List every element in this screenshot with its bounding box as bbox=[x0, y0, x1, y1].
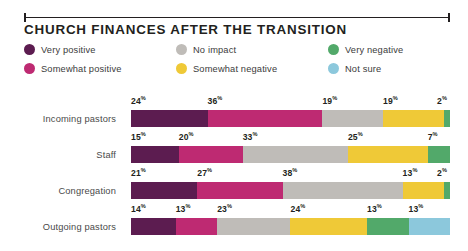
data-label: 36% bbox=[208, 96, 223, 106]
percent-sign: % bbox=[227, 203, 232, 209]
category-label: Congregation bbox=[0, 186, 116, 196]
category-label: Staff bbox=[0, 150, 116, 160]
data-label-value: 13 bbox=[409, 204, 419, 214]
rule-cap-right-icon bbox=[448, 13, 450, 22]
stacked-bar bbox=[131, 182, 450, 199]
data-label-value: 24 bbox=[291, 204, 301, 214]
percent-sign: % bbox=[393, 95, 398, 101]
data-label-value: 33 bbox=[243, 132, 253, 142]
bar-segment bbox=[444, 110, 450, 127]
data-label: 2% bbox=[437, 168, 447, 178]
data-label: 13% bbox=[176, 204, 191, 214]
category-label: Incoming pastors bbox=[0, 114, 116, 124]
chart-page: CHURCH FINANCES AFTER THE TRANSITION Ver… bbox=[0, 0, 468, 251]
data-label-group: 21%27%38%13%2% bbox=[131, 168, 450, 182]
bar-segment bbox=[403, 182, 444, 199]
percent-sign: % bbox=[252, 131, 257, 137]
data-label: 38% bbox=[283, 168, 298, 178]
percent-sign: % bbox=[141, 203, 146, 209]
bar-segment bbox=[243, 146, 348, 163]
data-label: 13% bbox=[403, 168, 418, 178]
data-label: 21% bbox=[131, 168, 146, 178]
legend-item-very-positive: Very positive bbox=[24, 44, 96, 55]
legend-item-somewhat-positive: Somewhat positive bbox=[24, 63, 122, 74]
chart-row: Congregation 21%27%38%13%2% bbox=[0, 168, 468, 205]
data-label: 24% bbox=[131, 96, 146, 106]
data-label-value: 15 bbox=[131, 132, 141, 142]
data-label-value: 25 bbox=[348, 132, 358, 142]
title-rule-icon bbox=[24, 13, 450, 22]
data-label: 27% bbox=[197, 168, 212, 178]
data-label: 2% bbox=[437, 96, 447, 106]
bar-segment bbox=[131, 182, 197, 199]
legend-item-very-negative: Very negative bbox=[328, 44, 403, 55]
chart-row: Incoming pastors 24%36%19%19%2% bbox=[0, 96, 468, 133]
rule-line bbox=[24, 17, 450, 18]
percent-sign: % bbox=[300, 203, 305, 209]
percent-sign: % bbox=[189, 131, 194, 137]
bar-segment bbox=[428, 146, 450, 163]
bar-segment bbox=[176, 218, 217, 235]
percent-sign: % bbox=[412, 167, 417, 173]
percent-sign: % bbox=[442, 95, 447, 101]
circle-swatch-icon bbox=[24, 44, 35, 55]
data-label-value: 19 bbox=[322, 96, 332, 106]
bar-segment bbox=[290, 218, 367, 235]
data-label: 25% bbox=[348, 132, 363, 142]
percent-sign: % bbox=[141, 167, 146, 173]
bar-segment bbox=[322, 110, 383, 127]
data-label: 19% bbox=[322, 96, 337, 106]
chart-row: Outgoing pastors 14%13%23%24%13%13% bbox=[0, 204, 468, 241]
legend-item-somewhat-negative: Somewhat negative bbox=[176, 63, 277, 74]
circle-swatch-icon bbox=[328, 63, 339, 74]
data-label-value: 13 bbox=[367, 204, 377, 214]
percent-sign: % bbox=[377, 203, 382, 209]
bar-segment bbox=[131, 110, 208, 127]
circle-swatch-icon bbox=[24, 63, 35, 74]
data-label-value: 36 bbox=[208, 96, 218, 106]
bar-segment bbox=[409, 218, 450, 235]
bar-segment bbox=[208, 110, 323, 127]
legend-item-no-impact: No impact bbox=[176, 44, 236, 55]
percent-sign: % bbox=[185, 203, 190, 209]
circle-swatch-icon bbox=[176, 63, 187, 74]
stacked-bar bbox=[131, 110, 450, 127]
bar-segment bbox=[217, 218, 290, 235]
percent-sign: % bbox=[433, 131, 438, 137]
data-label: 23% bbox=[217, 204, 232, 214]
data-label-value: 20 bbox=[179, 132, 189, 142]
data-label-value: 19 bbox=[383, 96, 393, 106]
legend-label: Somewhat negative bbox=[193, 64, 277, 74]
data-label: 19% bbox=[383, 96, 398, 106]
circle-swatch-icon bbox=[176, 44, 187, 55]
percent-sign: % bbox=[292, 167, 297, 173]
data-label: 33% bbox=[243, 132, 258, 142]
chart-legend: Very positive Somewhat positive No impac… bbox=[24, 44, 454, 84]
data-label-value: 14 bbox=[131, 204, 141, 214]
bar-segment bbox=[283, 182, 403, 199]
data-label: 13% bbox=[367, 204, 382, 214]
bar-segment bbox=[131, 218, 176, 235]
bar-segment bbox=[367, 218, 408, 235]
circle-swatch-icon bbox=[328, 44, 339, 55]
page-title: CHURCH FINANCES AFTER THE TRANSITION bbox=[24, 22, 347, 37]
stacked-bar-chart: Incoming pastors 24%36%19%19%2% Staff 15… bbox=[0, 96, 468, 251]
percent-sign: % bbox=[332, 95, 337, 101]
data-label: 24% bbox=[291, 204, 306, 214]
bar-segment bbox=[383, 110, 444, 127]
data-label: 15% bbox=[131, 132, 146, 142]
legend-label: Not sure bbox=[345, 64, 381, 74]
bar-segment bbox=[131, 146, 179, 163]
data-label-value: 27 bbox=[197, 168, 207, 178]
data-label-group: 24%36%19%19%2% bbox=[131, 96, 450, 110]
data-label-value: 21 bbox=[131, 168, 141, 178]
data-label-group: 15%20%33%25%7% bbox=[131, 132, 450, 146]
chart-row: Staff 15%20%33%25%7% bbox=[0, 132, 468, 169]
legend-item-not-sure: Not sure bbox=[328, 63, 381, 74]
data-label-value: 38 bbox=[283, 168, 293, 178]
stacked-bar bbox=[131, 218, 450, 235]
data-label-value: 13 bbox=[176, 204, 186, 214]
percent-sign: % bbox=[358, 131, 363, 137]
data-label: 20% bbox=[179, 132, 194, 142]
bar-segment bbox=[179, 146, 243, 163]
